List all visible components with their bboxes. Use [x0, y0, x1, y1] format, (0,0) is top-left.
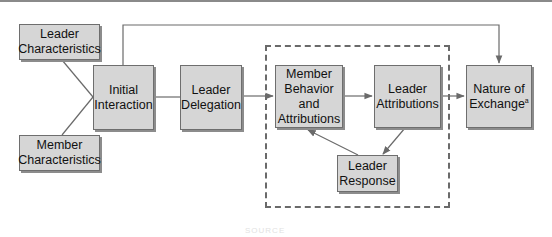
- node-leader-attributions: Leader Attributions: [374, 65, 441, 128]
- node-label: Member Behavior and Attributions: [278, 67, 341, 127]
- node-label: Leader Attributions: [376, 82, 439, 112]
- node-initial-interaction: Initial Interaction: [93, 65, 154, 130]
- node-label: Leader Response: [339, 159, 395, 189]
- node-leader-response: Leader Response: [337, 155, 398, 192]
- node-label: Initial Interaction: [94, 83, 152, 113]
- edge-member-char-to-initial: [62, 97, 93, 135]
- node-label: Leader Delegation: [181, 83, 241, 113]
- node-nature-of-exchange: Nature of Exchangea: [466, 65, 532, 128]
- node-leader-delegation: Leader Delegation: [180, 65, 242, 130]
- node-member-characteristics: Member Characteristics: [19, 135, 100, 171]
- node-label: Nature of Exchangea: [469, 82, 529, 112]
- edge-leader-char-to-initial: [62, 60, 93, 97]
- source-ghost-text: SOURCE: [245, 226, 285, 235]
- node-label: Member Characteristics: [18, 138, 101, 168]
- node-leader-characteristics: Leader Characteristics: [19, 24, 100, 60]
- footnote-marker: a: [525, 96, 529, 103]
- node-member-behavior-and-attributions: Member Behavior and Attributions: [275, 65, 343, 128]
- node-label: Leader Characteristics: [18, 27, 101, 57]
